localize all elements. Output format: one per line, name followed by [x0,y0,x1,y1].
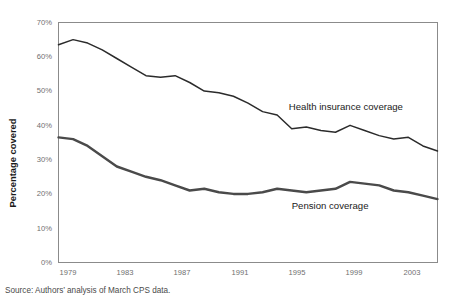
x-tick-label: 1987 [174,268,191,277]
y-tick-label: 30% [37,155,52,164]
x-tick-label: 1999 [346,268,363,277]
y-tick-label: 0% [41,258,52,267]
y-axis-title-text: Percentage covered [7,118,18,207]
x-tick-label: 2003 [404,268,421,277]
y-axis-title: Percentage covered [7,118,18,207]
chart-background [0,0,454,306]
y-tick-label: 40% [37,121,52,130]
y-tick-label: 10% [37,224,52,233]
series-label-health-insurance-coverage: Health insurance coverage [289,101,403,112]
y-tick-label: 70% [37,18,52,27]
x-tick-label: 1995 [289,268,306,277]
x-tick-label: 1991 [232,268,249,277]
line-chart: Percentage covered 70% 60% 50% 40% 30% 2… [0,0,454,306]
y-tick-label: 50% [37,86,52,95]
x-tick-label: 1983 [117,268,134,277]
y-tick-label: 20% [37,189,52,198]
chart-figure: Percentage covered 70% 60% 50% 40% 30% 2… [0,0,454,306]
x-tick-label: 1979 [60,268,77,277]
series-label-pension-coverage: Pension coverage [292,200,369,211]
y-tick-label: 60% [37,52,52,61]
source-note: Source: Authors’ analysis of March CPS d… [5,286,170,295]
